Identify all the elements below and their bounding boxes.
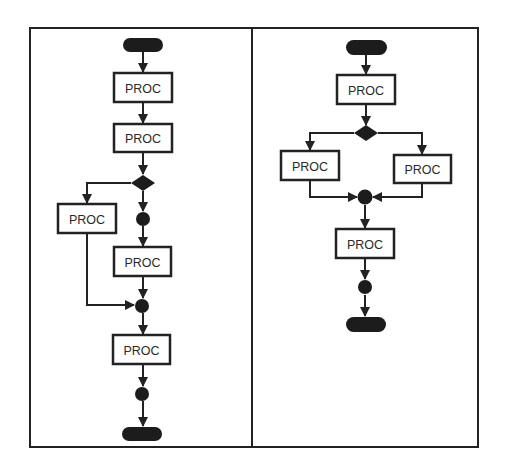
start-terminator — [123, 38, 163, 52]
end-terminator — [122, 427, 162, 441]
left-connectors — [87, 52, 143, 426]
left-panel: PROC PROC PROC PROC PROC — [58, 38, 172, 441]
edge-decision-to-p3 — [378, 133, 422, 154]
junction-node — [135, 387, 149, 401]
process-label: PROC — [69, 213, 105, 227]
merge-junction — [135, 299, 149, 313]
decision-diamond — [131, 175, 155, 191]
end-terminator — [346, 317, 386, 332]
process-label: PROC — [123, 344, 159, 358]
process-box: PROC — [114, 73, 172, 102]
edge-p2-to-j1 — [310, 180, 357, 197]
process-label: PROC — [292, 160, 328, 174]
process-label: PROC — [124, 256, 160, 270]
process-label: PROC — [404, 163, 440, 177]
process-box: PROC — [336, 229, 394, 258]
process-box: PROC — [113, 335, 170, 364]
right-panel: PROC PROC PROC PROC — [281, 40, 451, 332]
process-label: PROC — [125, 82, 161, 96]
merge-junction — [358, 190, 373, 205]
process-label: PROC — [125, 132, 161, 146]
start-terminator — [346, 40, 387, 55]
edge-p3-to-j1 — [373, 183, 422, 197]
process-box: PROC — [114, 124, 172, 152]
process-box: PROC — [58, 204, 116, 233]
decision-diamond — [354, 125, 378, 141]
edge-decision-to-p2 — [310, 133, 354, 150]
process-box: PROC — [281, 151, 339, 180]
process-label: PROC — [348, 84, 384, 98]
process-label: PROC — [347, 238, 383, 252]
process-box: PROC — [337, 75, 395, 104]
junction-node — [136, 212, 150, 226]
process-box: PROC — [114, 247, 171, 276]
flowchart-canvas: PROC PROC PROC PROC PROC — [0, 0, 505, 467]
junction-node — [358, 280, 372, 294]
edge-decision-to-p3 — [87, 183, 131, 203]
outer-frame — [30, 28, 478, 447]
process-box: PROC — [394, 155, 451, 183]
